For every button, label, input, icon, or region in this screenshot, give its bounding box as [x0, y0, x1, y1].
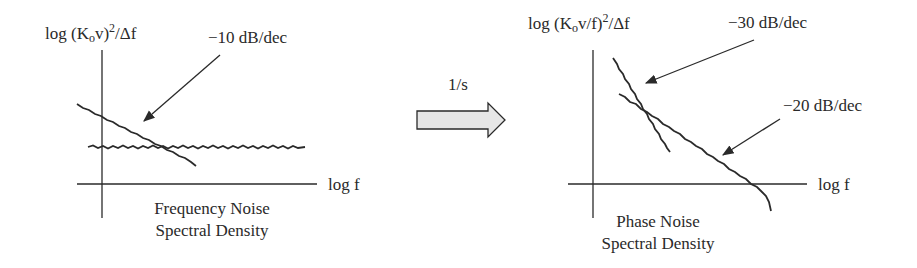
left-sloped-noise-curve — [77, 104, 196, 166]
frequency-noise-plot — [77, 50, 317, 218]
left-caption-line1: Frequency Noise — [132, 198, 292, 220]
ylabel-mid: v) — [95, 24, 109, 43]
transform-label: 1/s — [448, 76, 468, 93]
left-caption: Frequency Noise Spectral Density — [132, 198, 292, 242]
ylabel-prefix: log (K — [45, 24, 89, 43]
left-flat-noise-curve — [88, 146, 305, 149]
ylabel-prefix: log (K — [528, 14, 572, 33]
minus-30-db-curve — [613, 58, 670, 152]
minus-10-db-label: −10 dB/dec — [208, 29, 287, 46]
left-x-axis-label: log f — [328, 176, 360, 193]
minus-20-db-label: −20 dB/dec — [783, 97, 862, 114]
left-caption-line2: Spectral Density — [132, 220, 292, 242]
minus-20-db-arrow — [723, 119, 780, 155]
minus-30-db-label: −30 dB/dec — [728, 14, 807, 31]
ylabel-suffix: /Δf — [115, 24, 136, 43]
left-y-axis-label: log (Kov)2/Δf — [45, 22, 136, 44]
right-y-axis-label: log (Kov/f)2/Δf — [528, 12, 630, 34]
integration-block-arrow — [417, 103, 505, 137]
minus-30-db-arrow — [646, 40, 754, 83]
minus-20-db-curve — [619, 94, 771, 211]
ylabel-mid: v/f) — [578, 14, 603, 33]
right-caption-line2: Spectral Density — [578, 233, 738, 255]
right-caption: Phase Noise Spectral Density — [578, 211, 738, 255]
minus-10-db-arrow — [144, 55, 220, 121]
phase-noise-plot — [568, 40, 807, 218]
right-x-axis-label: log f — [818, 176, 850, 193]
right-caption-line1: Phase Noise — [578, 211, 738, 233]
ylabel-suffix: /Δf — [608, 14, 629, 33]
